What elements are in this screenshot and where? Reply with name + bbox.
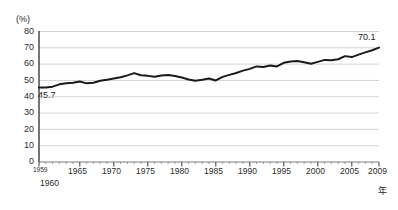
- data-series-line: [39, 48, 379, 88]
- gridlines: [39, 32, 379, 146]
- x-axis-ticks: [39, 162, 379, 167]
- plot-area: [0, 0, 398, 210]
- chart-container: (%) 年 80 70 60 50 40 30 20 10 0 1959 196…: [0, 0, 398, 210]
